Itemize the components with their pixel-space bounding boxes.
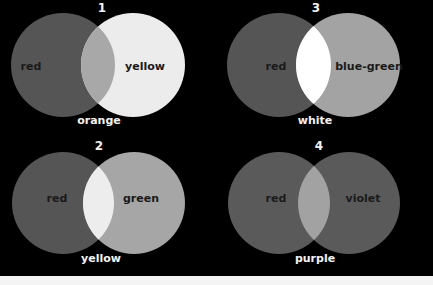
color-mixing-venn-diagrams: 1 red yellow orange 3 red blue-green whi…: [0, 0, 433, 285]
label-red-4: red: [266, 192, 287, 205]
label-purple-4: purple: [295, 252, 335, 265]
bottom-strip: [0, 276, 433, 285]
label-yellow-1: yellow: [125, 60, 165, 73]
venn-diagram-4: 4 red violet purple: [228, 139, 400, 265]
diagram-number-4: 4: [315, 139, 323, 153]
diagram-number-2: 2: [95, 139, 103, 153]
diagram-number-3: 3: [312, 1, 320, 15]
label-red-3: red: [266, 60, 287, 73]
label-violet-4: violet: [346, 192, 381, 205]
label-red-2: red: [47, 192, 68, 205]
label-orange-1: orange: [77, 114, 121, 127]
label-white-3: white: [298, 114, 332, 127]
venn-diagram-3: 3 red blue-green white: [227, 1, 403, 127]
diagram-number-1: 1: [98, 1, 106, 15]
label-yellow-overlap-2: yellow: [81, 252, 121, 265]
label-green-2: green: [123, 192, 159, 205]
venn-diagram-1: 1 red yellow orange: [11, 1, 185, 127]
label-red-1: red: [21, 60, 42, 73]
label-blue-green-3: blue-green: [335, 60, 403, 73]
venn-diagram-2: 2 red green yellow: [12, 139, 185, 265]
